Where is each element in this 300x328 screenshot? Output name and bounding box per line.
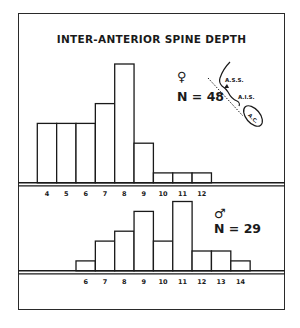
male-n-label: N = 29 [214,221,261,236]
x-tick-label: 14 [236,278,246,286]
histogram-bar [173,202,192,271]
x-tick-label: 10 [159,278,169,286]
x-tick-label: 5 [64,190,69,198]
histogram-bar [153,241,172,271]
male-symbol-icon: ♂ [214,207,226,220]
x-tick-label: 7 [103,190,108,198]
chart-figure: INTER-ANTERIOR SPINE DEPTH 456789101112 … [0,0,300,328]
female-x-axis: 456789101112 [19,183,286,199]
histogram-bar [115,64,134,183]
label-ass: A.S.S. [225,77,244,83]
x-tick-label: 6 [83,190,88,198]
x-tick-label: 11 [178,190,188,198]
depth-marker-icon [224,84,229,88]
histogram-bar [192,173,211,183]
x-tick-label: 10 [159,190,169,198]
histogram-bar [153,173,172,183]
x-tick-label: 9 [141,278,146,286]
histogram-bar [76,261,95,271]
x-tick-label: 8 [122,190,127,198]
histogram-bar [173,173,192,183]
histogram-bar [95,104,114,183]
x-tick-label: 6 [83,278,88,286]
histogram-bar [95,241,114,271]
x-tick-label: 8 [122,278,127,286]
histogram-bar [231,261,250,271]
label-ais: A.I.S. [238,94,255,100]
histogram-bar [76,123,95,182]
x-tick-label: 11 [178,278,188,286]
x-tick-label: 7 [103,278,108,286]
x-tick-label: 13 [217,278,226,286]
histogram-bar [192,251,211,271]
female-symbol-icon: ♀ [177,70,187,83]
histogram-bar [37,123,56,182]
histogram-bar [57,123,76,182]
histogram-bar [115,231,134,271]
female-n-label: N = 48 [177,89,224,104]
histogram-plot-area: 456789101112 67891011121314 A.S.S. A.I.S… [0,0,300,328]
x-tick-label: 9 [141,190,146,198]
male-x-axis: 67891011121314 [19,271,286,287]
x-tick-label: 4 [45,190,50,198]
x-tick-label: 12 [197,190,206,198]
histogram-bar [134,211,153,270]
x-tick-label: 12 [197,278,206,286]
histogram-bar [211,251,230,271]
histogram-bar [134,143,153,183]
